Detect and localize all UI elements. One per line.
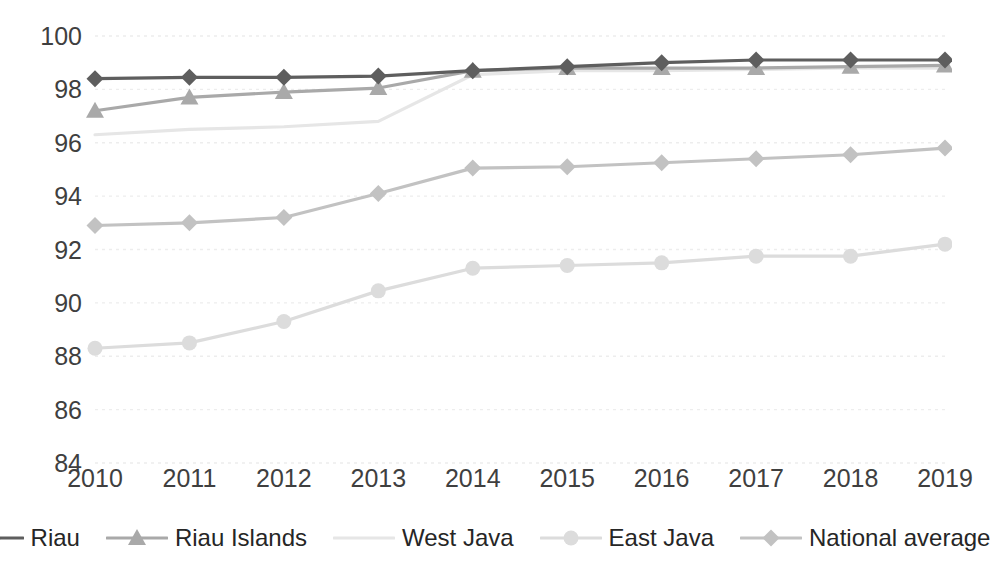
diamond-marker [0,530,1,547]
x-axis-tick-label: 2014 [445,466,501,491]
legend-item-label: Riau [31,526,80,550]
diamond-marker [763,530,780,547]
x-axis-tick-label: 2013 [351,466,407,491]
legend-item-riau[interactable]: Riau [0,526,80,550]
x-axis-tick-label: 2019 [917,466,973,491]
legend-swatch-icon [0,527,24,549]
legend-item-label: East Java [609,526,714,550]
x-axis-tick-label: 2015 [539,466,595,491]
legend-item-label: West Java [402,526,514,550]
x-axis-tick-label: 2016 [634,466,690,491]
circle-marker [563,531,578,546]
legend-item-east-java[interactable]: East Java [540,526,714,550]
x-axis-tick-label: 2011 [163,466,217,491]
legend-swatch-icon [540,527,602,549]
legend-swatch-icon [106,527,168,549]
x-axis-tick-label: 2018 [823,466,879,491]
legend-item-label: National average [809,526,990,550]
chart-legend: RiauRiau IslandsWest JavaEast JavaNation… [0,515,952,561]
legend-item-national-average[interactable]: National average [740,526,990,550]
legend-item-west-java[interactable]: West Java [333,526,514,550]
legend-swatch-icon [333,527,395,549]
legend-item-riau-islands[interactable]: Riau Islands [106,526,307,550]
legend-item-label: Riau Islands [175,526,307,550]
x-axis-tick-label: 2010 [67,466,123,491]
x-axis-tick-label: 2012 [256,466,312,491]
x-axis-tick-label: 2017 [728,466,784,491]
legend-swatch-icon [740,527,802,549]
